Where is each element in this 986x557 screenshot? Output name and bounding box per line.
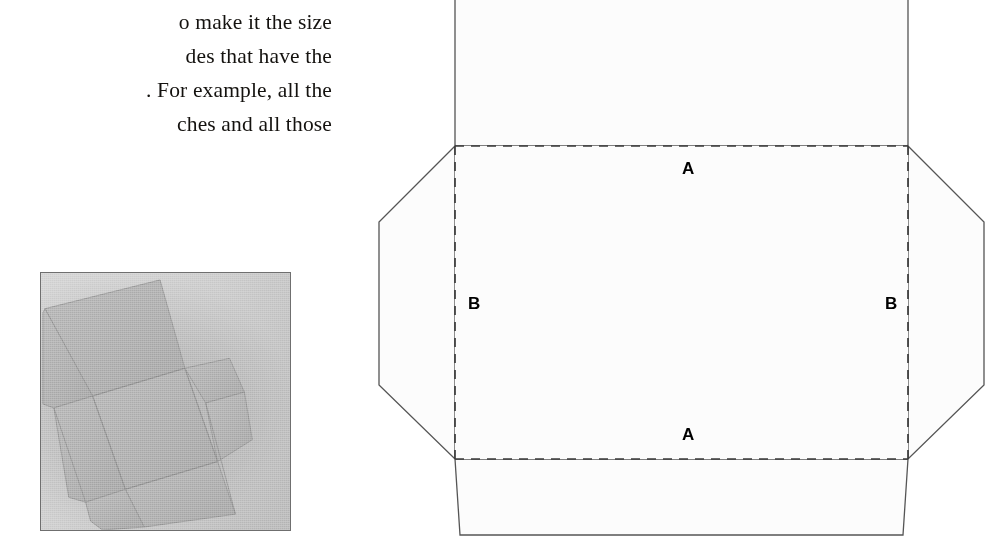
photo-film-grain [41,273,290,530]
right-flap-panel [908,146,984,459]
panel-label-b-right: B [885,295,897,312]
box-template-svg [360,0,986,557]
left-flap-panel [379,146,455,459]
bottom-flap-panel [455,459,908,535]
body-text-block: g o make it the size des that have the .… [0,0,340,150]
photo-flat-box-template [40,272,291,531]
top-flap-panel [455,0,908,146]
body-text-line: . For example, all the [146,80,332,102]
panel-label-a-top: A [682,160,694,177]
base-panel [455,146,908,459]
panel-label-b-left: B [468,295,480,312]
box-template-diagram: A A B B [360,0,986,557]
panel-label-a-bottom: A [682,426,694,443]
body-text-line: o make it the size [179,12,332,34]
body-text-line: des that have the [186,46,332,68]
body-text-line: ches and all those [177,114,332,136]
